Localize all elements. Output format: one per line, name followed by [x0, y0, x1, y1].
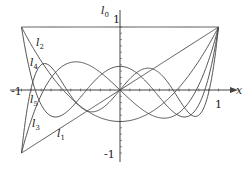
- plot-canvas: [0, 0, 249, 170]
- curve-label-l1: l1: [57, 128, 65, 139]
- curve-label-l2: l2: [36, 37, 44, 48]
- curve-label-l0: l0: [101, 5, 109, 16]
- curve-label-l4: l4: [30, 57, 38, 68]
- curve-label-l5: l5: [30, 94, 38, 105]
- legendre-diagram: -1 1 1 -1 x l0l1l2l3l4l5: [0, 0, 249, 170]
- y-tick-pos-label: 1: [113, 14, 120, 25]
- x-tick-neg-label: -1: [11, 86, 22, 97]
- x-tick-pos-label: 1: [215, 99, 222, 110]
- y-tick-neg-label: -1: [104, 149, 115, 160]
- x-axis-label: x: [236, 85, 242, 96]
- curve-label-l3: l3: [32, 118, 40, 129]
